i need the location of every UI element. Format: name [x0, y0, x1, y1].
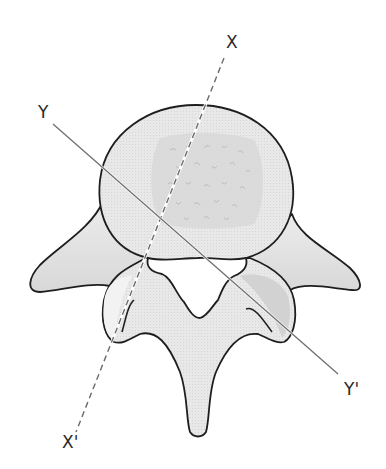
- label-x: X: [226, 34, 238, 51]
- label-y: Y: [38, 104, 48, 121]
- label-y-prime: Y': [344, 381, 359, 398]
- vertebra-diagram: [0, 0, 386, 469]
- cancellous-bone: [151, 133, 263, 229]
- label-x-prime: X': [62, 434, 78, 451]
